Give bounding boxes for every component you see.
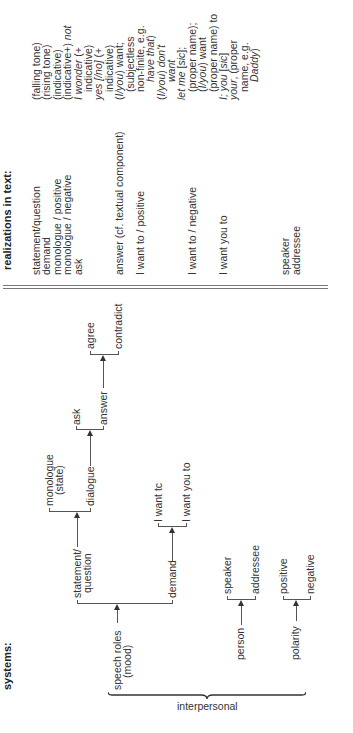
arrow-line-dialogue: [90, 435, 91, 466]
separator-line-2: [3, 285, 328, 286]
realization-row: ask: [73, 131, 83, 275]
arrow-line-polarity: [296, 606, 297, 621]
realization-row: [260, 131, 270, 275]
bracket-tick: [283, 596, 284, 600]
realization-row: [93, 131, 103, 275]
arrow-head-icon: [114, 604, 120, 610]
arrow-head-icon: [238, 600, 244, 606]
bracket-monologue-dialogue: [49, 511, 91, 512]
node-monologue: monologue (state): [44, 454, 65, 506]
bracket-ask-answer: [76, 429, 104, 430]
node-negative: negative: [305, 554, 315, 594]
bracket-tick: [255, 596, 256, 600]
realization-row: addressee: [291, 131, 301, 275]
bracket-tick: [158, 523, 159, 527]
bracket-tick: [118, 351, 119, 355]
node-answer: answer: [98, 391, 108, 425]
bracket-person: [227, 599, 256, 600]
arrow-line-answer: [103, 361, 104, 388]
node-agree: agree: [85, 322, 95, 349]
bracket-tick: [103, 426, 104, 430]
realizations-column-1: statement/question demand monologue / po…: [31, 131, 301, 275]
realization-text: (: [155, 97, 167, 101]
arrow-line-speech-roles: [117, 609, 118, 623]
realization-detail-row: Daddy): [249, 14, 259, 100]
realization-row: [156, 131, 166, 275]
bracket-tick: [77, 600, 78, 604]
realization-row: [228, 131, 238, 275]
bracket-tick: [90, 351, 91, 355]
node-dialogue: dialogue: [85, 466, 95, 506]
node-speaker: speaker: [222, 557, 232, 594]
realization-row: I want to / positive: [135, 131, 145, 275]
node-speech-roles: speech roles (mood): [112, 630, 133, 690]
realization-text: (: [113, 97, 125, 101]
node-speech-roles-line2: (mood): [122, 630, 132, 690]
realization-row: [145, 131, 155, 275]
node-i-want-to: I want tc: [153, 483, 163, 522]
node-ask: ask: [71, 409, 81, 425]
node-demand: demand: [167, 560, 177, 598]
bracket-tick: [186, 523, 187, 527]
arrow-head-icon: [74, 512, 80, 518]
node-person: person: [235, 628, 245, 660]
separator-line-1: [3, 288, 328, 289]
realizations-header: realizations in text:: [2, 170, 12, 270]
realization-row: [166, 131, 176, 275]
realization-row: I want to / negative: [187, 131, 197, 275]
interpersonal-brace: [108, 691, 306, 699]
bracket-agree-contradict: [90, 354, 119, 355]
systems-header: systems:: [2, 642, 12, 690]
realization-text: ): [144, 35, 156, 39]
bracket-tick: [227, 596, 228, 600]
rotated-page: systems: realizations in text: interpers…: [0, 0, 353, 733]
bracket-tick: [310, 596, 311, 600]
realization-text: ): [248, 48, 260, 52]
realization-text: not: [61, 26, 73, 41]
node-positive: positive: [278, 558, 288, 594]
node-contradict: contradict: [113, 303, 123, 349]
realizations-column-2: (falling tone)(rising tone)(indicative)(…: [31, 14, 260, 100]
realization-row: [239, 131, 249, 275]
realization-detail-row: (I/you) don't: [156, 14, 166, 100]
node-statement-question: statement/ question: [72, 549, 93, 598]
bracket-tick: [172, 600, 173, 604]
arrow-head-icon: [87, 430, 93, 436]
node-addressee: addressee: [250, 545, 260, 594]
arrow-line-statement: [77, 516, 78, 547]
interpersonal-label: interpersonal: [177, 701, 237, 711]
bracket-mood: [77, 603, 173, 604]
realization-text: Daddy: [248, 52, 260, 82]
node-i-want-you-to: I want you to: [181, 462, 191, 522]
node-monologue-line2: (state): [54, 454, 64, 506]
bracket-polarity: [283, 599, 311, 600]
arrow-head-icon: [100, 355, 106, 361]
arrow-line-person: [241, 606, 242, 625]
bracket-tick: [90, 508, 91, 512]
arrow-head-icon: [169, 527, 175, 533]
arrow-line-demand: [172, 533, 173, 561]
bracket-tick: [49, 508, 50, 512]
realization-row: [197, 131, 207, 275]
realization-row: answer (cf. textual component): [114, 131, 124, 275]
bracket-want: [158, 526, 187, 527]
realization-row: [83, 131, 93, 275]
realization-row: I want you to: [218, 131, 228, 275]
bracket-tick: [76, 426, 77, 430]
node-statement-line2: question: [82, 549, 92, 598]
realization-row: [249, 131, 259, 275]
realization-row: monologue / negative: [62, 131, 72, 275]
arrow-head-icon: [293, 600, 299, 606]
node-polarity: polarity: [290, 626, 300, 660]
